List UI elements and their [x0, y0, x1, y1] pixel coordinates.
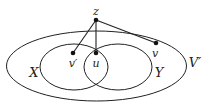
label-set-v-prime: V′ — [189, 55, 201, 70]
label-z: z — [92, 5, 99, 18]
label-u: u — [92, 57, 99, 70]
label-set-y: Y — [155, 65, 165, 80]
label-set-x: X — [28, 65, 39, 80]
diagram: z v′ u v X Y V′ — [0, 0, 206, 107]
node-v-prime — [71, 51, 76, 56]
node-v — [154, 41, 159, 46]
label-v-prime: v′ — [69, 57, 78, 70]
node-u — [94, 51, 99, 56]
node-z — [94, 18, 99, 23]
label-v: v — [152, 47, 159, 60]
